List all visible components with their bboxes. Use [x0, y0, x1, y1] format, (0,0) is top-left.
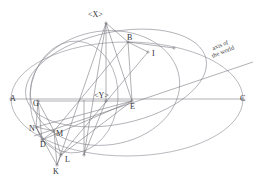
point-label-D: D	[40, 140, 46, 149]
line-E-L	[61, 101, 132, 155]
point-label-L: L	[65, 155, 70, 164]
geometry-figure: ABCDEGIKLMN<X><Y> axis ofthe world	[0, 0, 262, 185]
point-label-G: G	[33, 99, 39, 108]
point-label-B: B	[127, 33, 132, 42]
line-K-L	[57, 155, 61, 165]
point-label-M: M	[56, 129, 63, 138]
point-label-C: C	[240, 94, 245, 103]
diagram-canvas: ABCDEGIKLMN<X><Y> axis ofthe world	[0, 0, 262, 185]
point-label-Y: <Y>	[94, 91, 109, 100]
line-Y-bot	[84, 101, 106, 155]
point-label-I: I	[152, 49, 155, 58]
line-N-M	[36, 127, 54, 131]
meridian-ellipse	[23, 21, 187, 155]
point-label-E: E	[130, 102, 135, 111]
annotation-group: axis ofthe world	[208, 37, 236, 59]
axis-of-the-world: axis ofthe world	[208, 37, 236, 59]
point-label-X: <X>	[88, 10, 103, 19]
point-label-K: K	[53, 167, 59, 176]
point-label-A: A	[10, 94, 16, 103]
point-label-group: ABCDEGIKLMN<X><Y>	[10, 10, 245, 176]
line-B-M	[54, 42, 128, 131]
line-I-L	[61, 52, 148, 155]
point-label-N: N	[29, 124, 35, 133]
